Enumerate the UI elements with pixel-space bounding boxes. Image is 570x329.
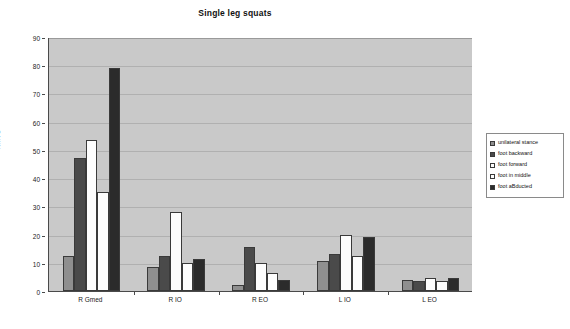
chart-root: Single leg squats %MVC 01020304050607080… (0, 0, 570, 329)
y-tick-mark (42, 179, 45, 180)
bar (182, 263, 194, 291)
bar (267, 273, 279, 291)
legend-label: foot in middle (498, 173, 531, 179)
bar (448, 278, 460, 291)
legend-swatch-icon (490, 174, 495, 179)
x-tick-label: R Gmed (78, 296, 102, 303)
bar (255, 263, 267, 291)
x-tick-label: R IO (169, 296, 182, 303)
bar (425, 278, 437, 291)
bar (329, 254, 341, 291)
y-tick-mark (42, 207, 45, 208)
y-tick-label: 70 (33, 91, 40, 98)
legend-label: foot backward (498, 151, 532, 157)
x-tick-label: L IO (339, 296, 351, 303)
y-tick-mark (42, 66, 45, 67)
legend-swatch-icon (490, 141, 495, 146)
y-tick-mark (42, 94, 45, 95)
legend-item: foot in middle (490, 171, 560, 181)
bar (193, 259, 205, 291)
legend-item: foot backward (490, 149, 560, 159)
plot-area (48, 38, 472, 292)
bar (109, 68, 121, 291)
x-tick-label: R EO (252, 296, 268, 303)
y-tick-mark (42, 123, 45, 124)
bar (97, 192, 109, 291)
bar (352, 256, 364, 291)
y-tick-mark (42, 151, 45, 152)
y-tick-mark (42, 292, 45, 293)
bar (413, 281, 425, 291)
legend-label: foot aBducted (498, 184, 532, 190)
bar-group (388, 38, 473, 291)
legend-item: foot aBducted (490, 182, 560, 192)
legend-swatch-icon (490, 185, 495, 190)
bar-group (49, 38, 134, 291)
bar (86, 140, 98, 291)
y-tick-label: 30 (33, 204, 40, 211)
bar (402, 280, 414, 291)
bar (159, 256, 171, 291)
x-tick-mark (303, 291, 304, 295)
y-tick-mark (42, 264, 45, 265)
legend-label: unilateral stance (498, 140, 538, 146)
bar (340, 235, 352, 291)
y-tick-label: 60 (33, 119, 40, 126)
bar (436, 281, 448, 291)
y-tick-label: 50 (33, 147, 40, 154)
plot-area-wrapper (48, 38, 472, 292)
legend-item: foot forward (490, 160, 560, 170)
y-tick-label: 80 (33, 63, 40, 70)
bar-group (134, 38, 219, 291)
y-tick-label: 10 (33, 260, 40, 267)
x-tick-mark (134, 291, 135, 295)
legend-item: unilateral stance (490, 138, 560, 148)
y-tick-label: 20 (33, 232, 40, 239)
y-axis-tick-labels: 0102030405060708090 (0, 38, 46, 292)
bar (74, 158, 86, 291)
x-tick-mark (388, 291, 389, 295)
bar-groups (49, 38, 472, 291)
bar (363, 237, 375, 291)
chart-title: Single leg squats (0, 8, 470, 18)
bar (147, 267, 159, 291)
x-tick-label: L EO (422, 296, 437, 303)
y-tick-label: 40 (33, 176, 40, 183)
legend-swatch-icon (490, 163, 495, 168)
legend: unilateral stancefoot backwardfoot forwa… (486, 133, 564, 198)
bar (63, 256, 75, 291)
x-tick-mark (219, 291, 220, 295)
bar (278, 280, 290, 291)
y-tick-label: 90 (33, 35, 40, 42)
bar (170, 212, 182, 291)
bar-group (303, 38, 388, 291)
bar (232, 285, 244, 291)
legend-label: foot forward (498, 162, 527, 168)
legend-swatch-icon (490, 152, 495, 157)
bar (244, 247, 256, 291)
x-axis-tick-labels: R GmedR IOR EOL IOL EO (48, 296, 472, 310)
y-tick-label: 0 (36, 289, 40, 296)
bar-group (219, 38, 304, 291)
y-tick-mark (42, 236, 45, 237)
bar (317, 261, 329, 291)
y-tick-mark (42, 38, 45, 39)
